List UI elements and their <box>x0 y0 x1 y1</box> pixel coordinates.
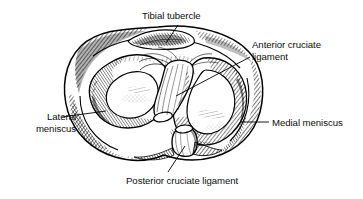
tibial-plateau-drawing <box>0 0 363 199</box>
label-posterior-cruciate-ligament: Posterior cruciate ligament <box>126 175 238 187</box>
label-anterior-cruciate-line1: Anterior cruciate <box>252 39 321 51</box>
anatomy-figure: Tibial tubercle Anterior cruciate ligame… <box>0 0 363 199</box>
label-medial-meniscus: Medial meniscus <box>272 117 343 129</box>
label-lateral-meniscus-line2: meniscus <box>12 123 76 135</box>
label-tibial-tubercle: Tibial tubercle <box>142 10 201 22</box>
label-anterior-cruciate-line2: ligament <box>252 51 321 63</box>
label-lateral-meniscus: Lateral meniscus <box>12 111 76 134</box>
label-anterior-cruciate-ligament: Anterior cruciate ligament <box>252 39 321 62</box>
label-lateral-meniscus-line1: Lateral <box>12 111 76 123</box>
